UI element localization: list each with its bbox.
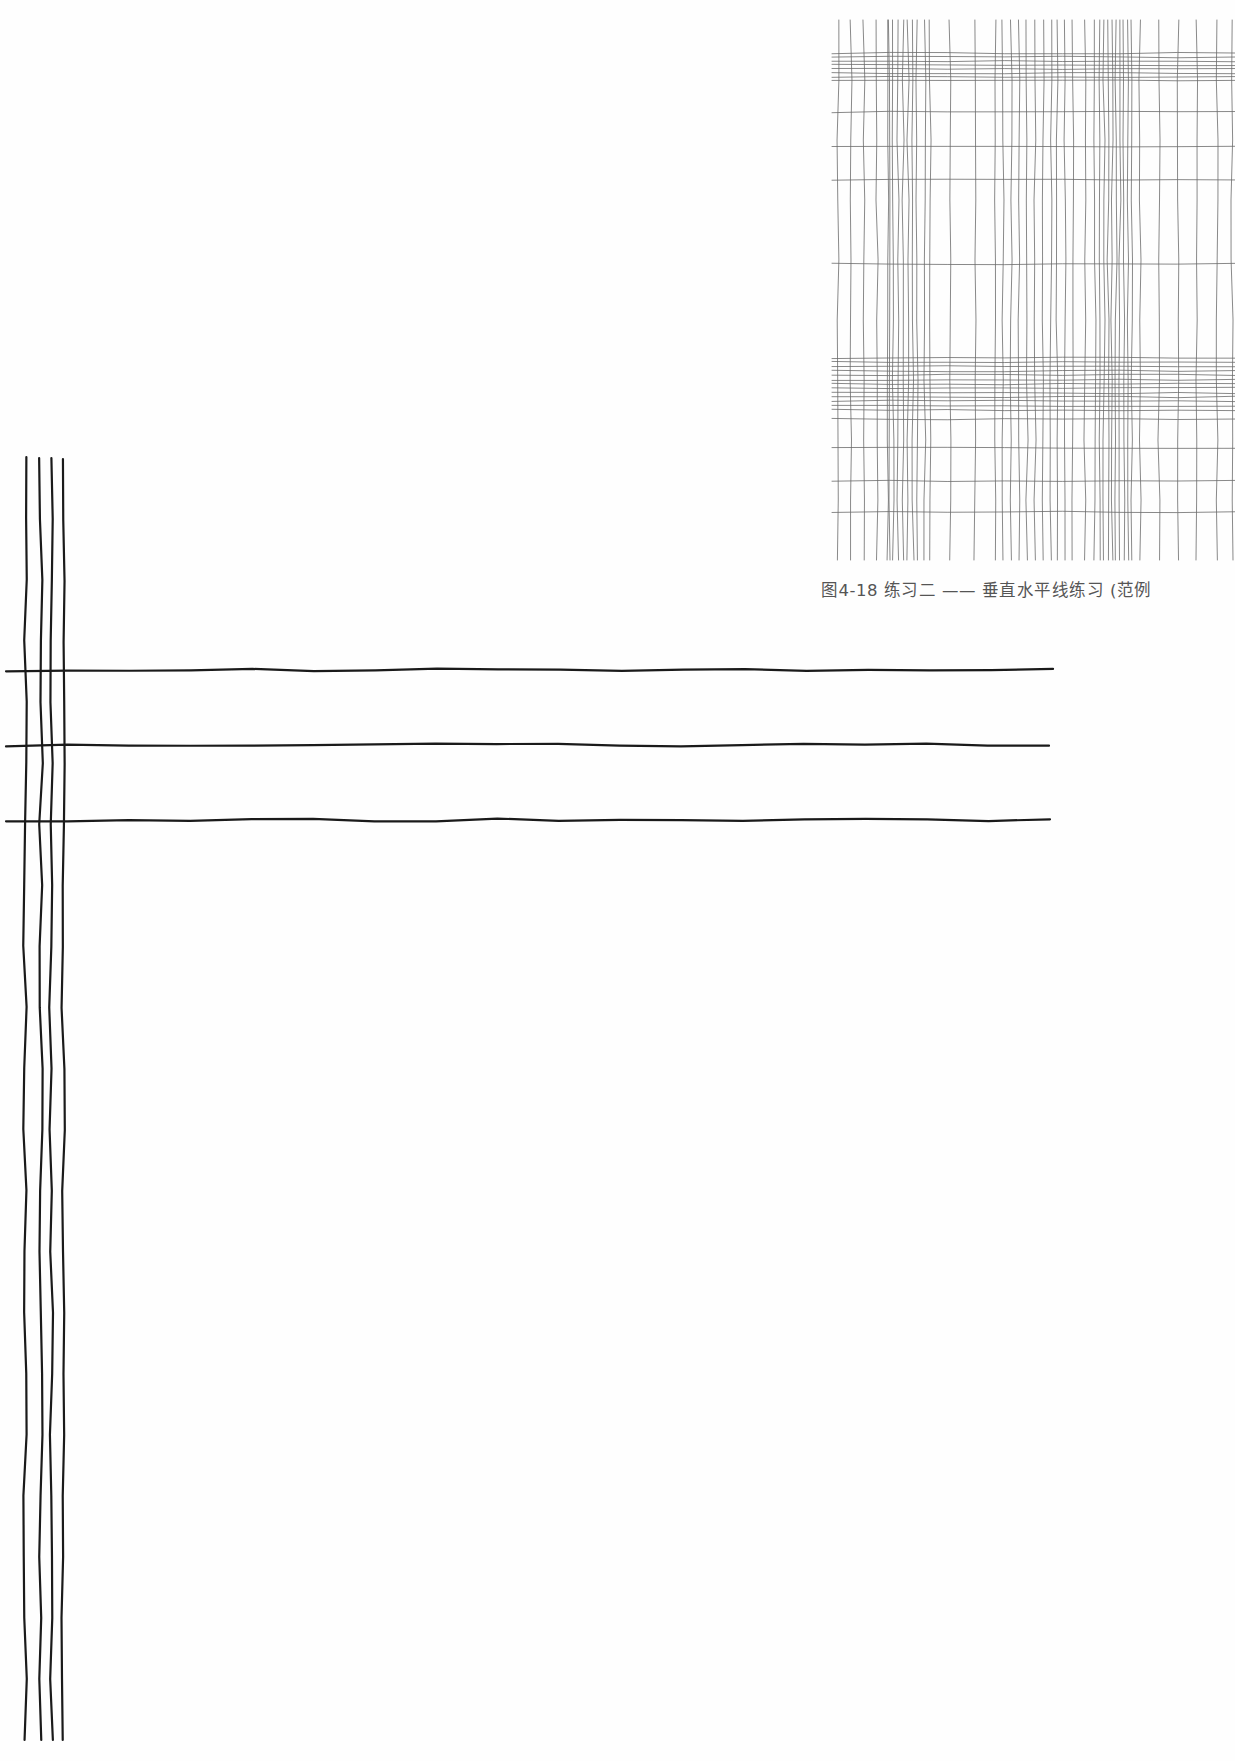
grid-horizontal-line xyxy=(832,405,1235,406)
grid-horizontal-line xyxy=(832,409,1235,410)
practice-lines-area xyxy=(0,440,1235,1761)
practice-vertical-line xyxy=(49,458,53,1740)
grid-horizontal-line xyxy=(832,263,1235,264)
practice-vertical-line xyxy=(23,457,27,1740)
grid-horizontal-line xyxy=(832,418,1235,419)
book-page: 图4-18 练习二 —— 垂直水平线练习 (范例 xyxy=(0,0,1235,1761)
practice-drawing xyxy=(0,440,1235,1761)
grid-horizontal-line xyxy=(832,400,1235,401)
grid-horizontal-line xyxy=(832,80,1235,81)
practice-horizontal-line xyxy=(6,819,1050,822)
practice-vertical-line xyxy=(62,459,65,1740)
practice-horizontal-line xyxy=(6,669,1053,672)
grid-horizontal-line xyxy=(832,366,1235,367)
practice-horizontal-line xyxy=(6,744,1049,747)
practice-vertical-line xyxy=(39,458,43,1740)
